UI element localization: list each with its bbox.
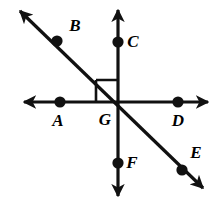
point-label-F: F — [126, 154, 137, 171]
point-dot-E — [176, 164, 187, 175]
point-dot-A — [54, 96, 65, 107]
diagram-canvas — [0, 0, 223, 213]
point-label-G: G — [99, 111, 111, 128]
point-label-E: E — [190, 144, 201, 161]
geometry-diagram: B C A G D F E — [0, 0, 223, 213]
point-dot-C — [112, 36, 123, 47]
point-label-C: C — [127, 33, 138, 50]
point-label-A: A — [52, 112, 63, 129]
point-dot-D — [172, 96, 183, 107]
point-dot-B — [51, 35, 62, 46]
point-label-D: D — [172, 112, 184, 129]
right-angle-marker — [96, 80, 118, 102]
point-dot-F — [112, 157, 123, 168]
point-label-B: B — [69, 17, 80, 34]
